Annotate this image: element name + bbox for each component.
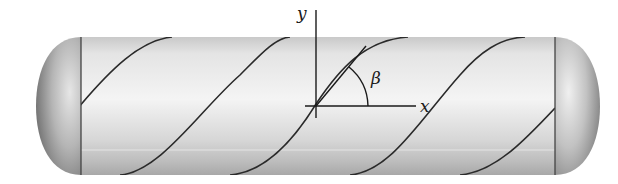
left-end-cap (36, 37, 81, 175)
y-axis-label: y (296, 3, 307, 23)
x-axis-label: x (420, 96, 430, 116)
right-end-cap (555, 37, 600, 175)
pressure-vessel-diagram: y x β (0, 0, 618, 184)
angle-beta-label: β (370, 68, 381, 88)
